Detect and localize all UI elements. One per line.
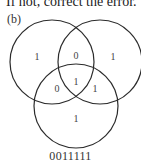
region-left-right: 0 — [74, 50, 79, 61]
venn-diagram: 1 0 1 0 1 1 1 — [0, 0, 141, 168]
region-right-only: 1 — [111, 51, 116, 62]
circle-right — [58, 20, 141, 104]
circle-left — [10, 20, 94, 104]
region-right-bottom: 1 — [93, 83, 98, 94]
region-left-only: 1 — [35, 51, 40, 62]
binary-caption: 0011111 — [0, 149, 141, 164]
region-left-bottom: 0 — [55, 83, 60, 94]
region-all-three: 1 — [74, 76, 79, 87]
region-bottom-only: 1 — [74, 113, 79, 124]
